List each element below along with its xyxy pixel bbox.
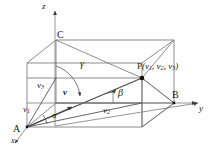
angle-beta-label: β: [118, 88, 123, 98]
point-P-dot: [140, 76, 145, 81]
angle-alpha-label: α: [52, 111, 57, 120]
point-A-dot: [26, 126, 29, 129]
vector-diagram-figure: z y x C B A P(v1, v2, v3) v3 v1 v2 v α β…: [0, 0, 211, 150]
component-v3-label: v3: [37, 81, 44, 90]
component-v2-label: v2: [103, 106, 110, 115]
angle-gamma-label: γ: [80, 59, 84, 69]
component-v1-label: v1: [23, 105, 30, 114]
component-v3-sub: 3: [41, 84, 44, 90]
p-coords-close: ): [175, 61, 178, 71]
component-v1-sub: 1: [27, 108, 30, 114]
edge-P-to-top-right: [142, 40, 174, 78]
angle-gamma-arc: [56, 66, 80, 96]
y-axis-label: y: [199, 104, 203, 113]
point-A-label: A: [13, 124, 20, 134]
point-B-label: B: [172, 90, 179, 100]
point-C-label: C: [57, 30, 64, 40]
vector-v-label: v: [63, 88, 67, 97]
point-B-dot: [173, 102, 176, 105]
edge-P-to-bottom-corner: [142, 78, 174, 103]
box-bottom-face: [27, 103, 174, 127]
component-v2-sub: 2: [107, 109, 110, 115]
diagram-canvas: [0, 0, 211, 150]
z-axis-label: z: [42, 2, 46, 11]
diagonal-bottom-right: [142, 103, 174, 127]
point-P-label-group: P(v1, v2, v3): [137, 62, 178, 71]
x-axis-label: x: [11, 137, 15, 145]
diagonal-C-to-P: [56, 40, 142, 78]
